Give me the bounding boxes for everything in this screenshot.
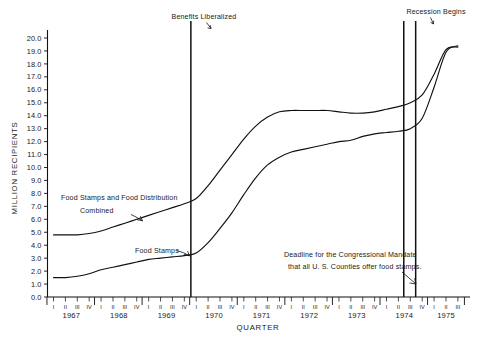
x-axis-year-label: 1970: [205, 311, 223, 320]
x-axis-quarter-label: II: [349, 304, 353, 310]
y-axis-tick-label: 20.0: [27, 34, 42, 43]
x-axis-year-label: 1968: [110, 311, 128, 320]
y-axis-tick-label: 15.0: [27, 98, 42, 107]
x-axis-quarter-label: I: [195, 304, 197, 310]
x-axis-year-label: 1971: [253, 311, 271, 320]
y-axis-tick-label: 3.0: [31, 254, 42, 263]
x-axis-quarter-label: III: [170, 304, 175, 310]
x-axis-quarter-label: I: [433, 304, 435, 310]
series-line-combined: [54, 47, 458, 235]
x-axis-quarter-label: III: [123, 304, 128, 310]
x-axis-quarter-label: IV: [182, 304, 188, 310]
x-axis-quarter-label: I: [338, 304, 340, 310]
y-axis-tick-label: 0.0: [31, 293, 42, 302]
x-axis-quarter-label: IV: [420, 304, 426, 310]
x-axis-quarter-label: II: [159, 304, 163, 310]
y-axis-tick-label: 6.0: [31, 215, 42, 224]
x-axis-quarter-label: III: [75, 304, 80, 310]
x-axis-quarter-label: III: [218, 304, 223, 310]
y-axis-title: MILLION RECIPIENTS: [10, 122, 19, 215]
y-axis-tick-label: 8.0: [31, 189, 42, 198]
food-stamp-recipients-line-chart: 0.01.02.03.04.05.06.07.08.09.010.011.012…: [0, 0, 485, 341]
x-axis-year-label: 1973: [348, 311, 366, 320]
x-axis-quarter-label: II: [302, 304, 306, 310]
x-axis-year-label: 1975: [437, 311, 455, 320]
x-axis-year-label: 1969: [158, 311, 176, 320]
annotation-benefits-liberalized-arrow: [207, 23, 212, 29]
series-label-food-stamps: Food Stamps: [135, 247, 179, 255]
y-axis-tick-label: 16.0: [27, 85, 42, 94]
x-axis-year-label: 1967: [62, 311, 80, 320]
y-axis-tick-label: 4.0: [31, 241, 42, 250]
y-axis-tick-label: 2.0: [31, 267, 42, 276]
x-axis-quarter-label: IV: [324, 304, 330, 310]
x-axis-quarter-label: IV: [134, 304, 140, 310]
x-axis-quarter-label: I: [291, 304, 293, 310]
x-axis-quarter-label: IV: [372, 304, 378, 310]
x-axis-quarter-label: II: [397, 304, 401, 310]
y-axis-tick-label: 10.0: [27, 163, 42, 172]
annotation-mandate-deadline-line2: that all U. S. Counties offer food stamp…: [288, 263, 422, 271]
chart-container: 0.01.02.03.04.05.06.07.08.09.010.011.012…: [0, 0, 485, 341]
x-axis-quarter-label: II: [444, 304, 448, 310]
y-axis-tick-label: 11.0: [27, 150, 41, 159]
y-axis-tick-label: 1.0: [31, 280, 42, 289]
series-label-combined-line2: Combined: [80, 207, 114, 215]
y-axis-tick-label: 19.0: [27, 47, 42, 56]
x-axis-year-label: 1974: [396, 311, 414, 320]
x-axis-quarter-label: III: [360, 304, 365, 310]
x-axis-quarter-label: II: [207, 304, 211, 310]
y-axis-tick-label: 5.0: [31, 228, 42, 237]
x-axis-quarter-label: III: [265, 304, 270, 310]
y-axis-tick-label: 14.0: [27, 111, 42, 120]
x-axis-quarter-label: III: [313, 304, 318, 310]
annotation-recession-begins-arrow: [431, 18, 434, 25]
x-axis-quarter-label: IV: [87, 304, 93, 310]
x-axis-quarter-label: I: [148, 304, 150, 310]
x-axis-quarter-label: IV: [277, 304, 283, 310]
x-axis-quarter-label: II: [64, 304, 68, 310]
annotation-benefits-liberalized-label: Benefits Liberalized: [172, 13, 237, 21]
x-axis-year-label: 1972: [300, 311, 318, 320]
series-line-food-stamps: [54, 46, 458, 278]
y-axis-tick-label: 18.0: [27, 60, 42, 69]
x-axis-quarter-label: I: [386, 304, 388, 310]
y-axis-tick-label: 7.0: [31, 202, 42, 211]
x-axis-quarter-label: I: [100, 304, 102, 310]
x-axis-quarter-label: II: [111, 304, 115, 310]
x-axis-title: QUARTER: [237, 323, 280, 332]
x-axis-quarter-label: II: [254, 304, 258, 310]
series-label-combined-line1: Food Stamps and Food Distribution: [61, 194, 178, 202]
x-axis-quarter-label: IV: [229, 304, 235, 310]
x-axis-quarter-label: I: [53, 304, 55, 310]
y-axis-tick-label: 12.0: [27, 137, 42, 146]
x-axis-quarter-label: I: [243, 304, 245, 310]
x-axis-quarter-label: III: [408, 304, 413, 310]
x-axis-quarter-label: III: [456, 304, 461, 310]
annotation-recession-begins-label: Recession Begins: [406, 8, 465, 16]
annotation-mandate-deadline-line1: Deadline for the Congressional Mandate: [284, 251, 417, 259]
y-axis-tick-label: 13.0: [27, 124, 42, 133]
y-axis-tick-label: 17.0: [27, 72, 42, 81]
y-axis-tick-label: 9.0: [31, 176, 42, 185]
